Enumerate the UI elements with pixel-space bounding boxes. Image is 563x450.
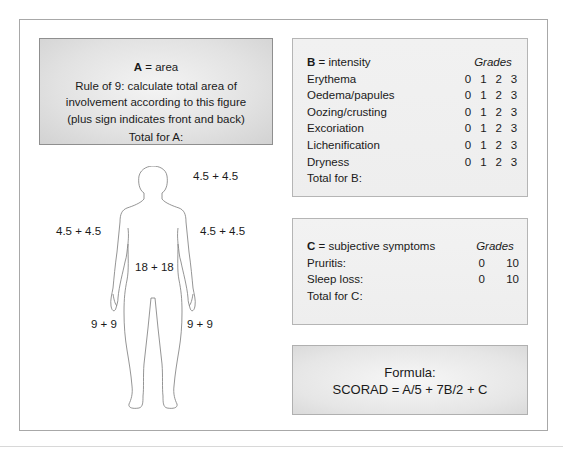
grade-2: 2 (493, 120, 505, 137)
intensity-row: Oozing/crusting 0123 (307, 104, 527, 121)
intensity-row: Excoriation 0123 (307, 120, 527, 137)
grade-max: 10 (497, 255, 519, 272)
area-letter: A (134, 61, 142, 73)
trunk-label: 18 + 18 (135, 261, 174, 273)
grade-0: 0 (462, 120, 474, 137)
grade-0: 0 (462, 137, 474, 154)
grade-3: 3 (508, 71, 520, 88)
symptom-row: Sleep loss: 010 (307, 271, 527, 288)
grade-3: 3 (508, 104, 520, 121)
symptom-label: Pruritis: (307, 255, 467, 272)
grade-0: 0 (462, 71, 474, 88)
grade-3: 3 (508, 120, 520, 137)
grade-1: 1 (477, 120, 489, 137)
intensity-label: Dryness (307, 154, 462, 171)
intensity-label: Lichenification (307, 137, 462, 154)
grade-3: 3 (508, 137, 520, 154)
intensity-label: Erythema (307, 71, 462, 88)
area-title-text: = area (142, 61, 178, 73)
intensity-box: B = intensity Grades Erythema 0123 Oedem… (292, 38, 528, 197)
area-total: Total for A: (40, 129, 272, 146)
intensity-row: Lichenification 0123 (307, 137, 527, 154)
intensity-total: Total for B: (307, 170, 527, 187)
formula-expression: SCORAD = A/5 + 7B/2 + C (293, 381, 527, 398)
grade-0: 0 (462, 154, 474, 171)
grade-min: 0 (467, 255, 485, 272)
grade-1: 1 (477, 137, 489, 154)
left-leg-label: 9 + 9 (91, 318, 117, 330)
intensity-row: Dryness 0123 (307, 154, 527, 171)
symptoms-total: Total for C: (307, 288, 527, 305)
symptoms-header: C = subjective symptoms Grades (307, 238, 527, 255)
grade-2: 2 (493, 154, 505, 171)
intensity-label: Excoriation (307, 120, 462, 137)
area-desc-line-3: (plus sign indicates front and back) (40, 111, 272, 128)
symptoms-box: C = subjective symptoms Grades Pruritis:… (292, 218, 528, 325)
grade-1: 1 (477, 87, 489, 104)
area-box: A = area Rule of 9: calculate total area… (39, 38, 273, 145)
intensity-header: B = intensity Grades (307, 54, 527, 71)
intensity-label: Oedema/papules (307, 87, 462, 104)
right-arm-label: 4.5 + 4.5 (200, 225, 245, 237)
grade-0: 0 (462, 104, 474, 121)
intensity-grades-header: Grades (462, 54, 524, 71)
grade-3: 3 (508, 87, 520, 104)
bottom-divider (0, 446, 563, 447)
grade-3: 3 (508, 154, 520, 171)
grade-2: 2 (493, 104, 505, 121)
area-desc-line-2: involvement according to this figure (40, 94, 272, 111)
grade-2: 2 (493, 137, 505, 154)
grade-1: 1 (477, 71, 489, 88)
symptom-label: Sleep loss: (307, 271, 467, 288)
head-label: 4.5 + 4.5 (193, 170, 238, 182)
intensity-row: Oedema/papules 0123 (307, 87, 527, 104)
symptom-row: Pruritis: 010 (307, 255, 527, 272)
formula-box: Formula: SCORAD = A/5 + 7B/2 + C (292, 345, 528, 415)
intensity-row: Erythema 0123 (307, 71, 527, 88)
intensity-label: Oozing/crusting (307, 104, 462, 121)
area-desc-line-1: Rule of 9: calculate total area of (40, 78, 272, 95)
body-outline-figure (103, 166, 203, 416)
left-arm-label: 4.5 + 4.5 (56, 225, 101, 237)
grade-2: 2 (493, 87, 505, 104)
grade-1: 1 (477, 104, 489, 121)
formula-title: Formula: (293, 364, 527, 381)
grade-min: 0 (467, 271, 485, 288)
grade-1: 1 (477, 154, 489, 171)
area-title: A = area (40, 59, 272, 76)
intensity-title-text: = intensity (315, 56, 370, 68)
right-leg-label: 9 + 9 (187, 318, 213, 330)
symptoms-grades-header: Grades (467, 238, 523, 255)
symptoms-title-text: = subjective symptoms (315, 240, 435, 252)
grade-2: 2 (493, 71, 505, 88)
grade-max: 10 (497, 271, 519, 288)
grade-0: 0 (462, 87, 474, 104)
